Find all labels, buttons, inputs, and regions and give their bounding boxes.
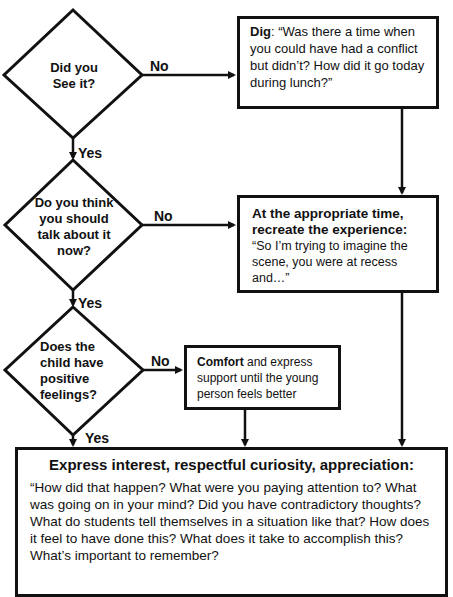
decision-2-line: now? bbox=[22, 243, 126, 259]
recreate-experience-box: At the appropriate time, recreate the ex… bbox=[237, 195, 439, 293]
dig-title: Dig bbox=[250, 24, 271, 39]
decision-3-line: child have bbox=[40, 355, 120, 371]
express-heading: Express interest, respectful curiosity, … bbox=[30, 456, 433, 473]
decision-2-text: Do you think you should talk about it no… bbox=[22, 195, 126, 259]
dig-text: : “Was there a time when you could have … bbox=[250, 24, 424, 90]
decision-1-text: Did you See it? bbox=[28, 60, 120, 92]
decision-1-yes-label: Yes bbox=[78, 145, 102, 161]
decision-2-no-label: No bbox=[154, 208, 173, 224]
recreate-heading: At the appropriate time, recreate the ex… bbox=[252, 206, 424, 238]
decision-1-line: See it? bbox=[28, 76, 120, 92]
decision-3-no-label: No bbox=[151, 353, 170, 369]
decision-2-line: talk about it bbox=[22, 227, 126, 243]
comfort-title: Comfort bbox=[197, 355, 244, 369]
decision-2-yes-label: Yes bbox=[78, 295, 102, 311]
decision-1-line: Did you bbox=[28, 60, 120, 76]
dig-box: Dig: “Was there a time when you could ha… bbox=[237, 16, 439, 109]
decision-3-line: Does the bbox=[40, 339, 120, 355]
recreate-text: “So I’m trying to imagine the scene, you… bbox=[252, 238, 424, 286]
express-interest-box: Express interest, respectful curiosity, … bbox=[15, 447, 448, 597]
decision-3-line: positive bbox=[40, 371, 120, 387]
decision-3-line: feelings? bbox=[40, 387, 120, 403]
decision-3-yes-label: Yes bbox=[85, 430, 109, 446]
decision-3-text: Does the child have positive feelings? bbox=[40, 339, 120, 403]
decision-1-no-label: No bbox=[150, 58, 169, 74]
decision-2-line: you should bbox=[22, 211, 126, 227]
express-text: “How did that happen? What were you payi… bbox=[30, 479, 433, 564]
comfort-box: Comfort and express support until the yo… bbox=[184, 345, 341, 410]
decision-2-line: Do you think bbox=[22, 195, 126, 211]
